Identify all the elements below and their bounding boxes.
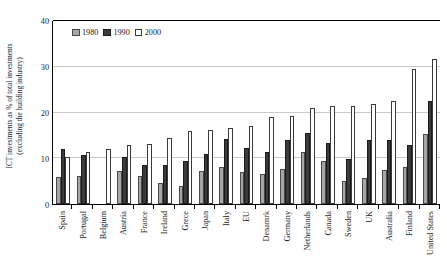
category-label-text: Sweden	[344, 211, 353, 237]
legend-label-1980: 1980	[82, 28, 98, 37]
category-label-text: Italy	[221, 211, 230, 226]
bar-france-2000	[147, 144, 152, 204]
legend-swatch-2000	[135, 29, 143, 37]
category-label-germany: Germany	[277, 209, 297, 280]
category-label-eu: EU	[236, 209, 256, 280]
category-label-austria: Austria	[113, 209, 133, 280]
category-label-text: France	[139, 211, 148, 233]
category-label-grece: Grece	[175, 209, 195, 280]
category-label-spain: Spain	[52, 209, 72, 280]
category-label-canada: Canada	[317, 209, 337, 280]
bar-group	[277, 21, 297, 204]
category-label-text: Portugal	[78, 211, 87, 239]
bar-portugal-2000	[86, 152, 91, 204]
category-label-text: UK	[364, 211, 373, 223]
category-label-finland: Finland	[399, 209, 419, 280]
plot-area	[52, 21, 440, 205]
bar-group	[135, 21, 155, 204]
category-label-australia: Australia	[379, 209, 399, 280]
bar-ireland-2000	[167, 138, 172, 204]
category-label-ireland: Ireland	[154, 209, 174, 280]
legend-item-2000: 2000	[135, 28, 161, 37]
bar-netherlands-2000	[310, 108, 315, 204]
bar-uk-2000	[371, 104, 376, 204]
bar-united-states-2000	[432, 59, 437, 204]
legend-label-2000: 2000	[145, 28, 161, 37]
bar-group	[318, 21, 338, 204]
category-label-text: Belgium	[99, 211, 108, 239]
category-label-netherlands: Netherlands	[297, 209, 317, 280]
bar-group	[399, 21, 419, 204]
y-tick-10: 10	[41, 155, 49, 164]
bar-group	[73, 21, 93, 204]
bar-group	[338, 21, 358, 204]
bar-canada-2000	[330, 106, 335, 204]
category-label-text: Canada	[323, 211, 332, 236]
bar-group	[359, 21, 379, 204]
y-axis-tick-labels: 010203040	[28, 0, 52, 212]
category-label-united-states: United States	[420, 209, 440, 280]
category-label-text: Spain	[58, 211, 67, 230]
y-axis-title-line-1: ICT investments as % of total investment…	[5, 43, 15, 168]
x-axis-category-labels: SpainPortugalBelgiumAustriaFranceIreland…	[52, 209, 440, 280]
bar-group	[257, 21, 277, 204]
category-label-uk: UK	[358, 209, 378, 280]
category-label-text: EU	[242, 211, 251, 222]
bar-belgium-2000	[106, 149, 111, 204]
legend-label-1990: 1990	[113, 28, 129, 37]
bar-group	[196, 21, 216, 204]
bar-group	[216, 21, 236, 204]
y-axis-title: ICT investments as % of total investment…	[0, 0, 28, 212]
category-label-france: France	[134, 209, 154, 280]
category-label-sweden: Sweden	[338, 209, 358, 280]
category-label-portugal: Portugal	[72, 209, 92, 280]
bar-grece-2000	[188, 131, 193, 204]
category-label-text: Australia	[384, 211, 393, 241]
category-label-text: Netherlands	[303, 211, 312, 251]
y-tick-20: 20	[41, 109, 49, 118]
category-label-text: Austria	[119, 211, 128, 235]
y-tick-30: 30	[41, 63, 49, 72]
category-label-italy: Italy	[215, 209, 235, 280]
bar-eu-2000	[249, 126, 254, 204]
legend-item-1990: 1990	[103, 28, 129, 37]
category-label-text: Japan	[201, 211, 210, 230]
bar-group	[298, 21, 318, 204]
bar-spain-2000	[65, 157, 70, 204]
bar-sweden-2000	[351, 106, 356, 204]
bar-finland-2000	[412, 69, 417, 204]
chart-legend: 198019902000	[72, 28, 161, 37]
bar-group	[175, 21, 195, 204]
bar-group	[53, 21, 73, 204]
y-tick-0: 0	[45, 201, 49, 210]
legend-swatch-1990	[103, 29, 111, 37]
bar-italy-2000	[228, 128, 233, 204]
bar-austria-2000	[127, 145, 132, 204]
y-axis-title-line-2: (excluding the building industry)	[14, 43, 24, 168]
category-label-text: Finland	[405, 211, 414, 236]
bar-groups	[53, 21, 440, 204]
bar-group	[155, 21, 175, 204]
category-label-text: Denamrk	[262, 211, 271, 241]
y-tick-40: 40	[41, 17, 49, 26]
category-label-japan: Japan	[195, 209, 215, 280]
bar-group	[379, 21, 399, 204]
category-label-text: United States	[425, 211, 434, 255]
bar-australia-2000	[391, 101, 396, 204]
bar-group	[114, 21, 134, 204]
bar-denamrk-2000	[269, 117, 274, 204]
bar-germany-2000	[290, 116, 295, 204]
bar-group	[94, 21, 114, 204]
bar-chart: ICT investments as % of total investment…	[0, 0, 447, 280]
category-label-text: Ireland	[160, 211, 169, 234]
category-label-denamrk: Denamrk	[256, 209, 276, 280]
bar-japan-2000	[208, 130, 213, 204]
bar-group	[420, 21, 440, 204]
category-label-belgium: Belgium	[93, 209, 113, 280]
category-label-text: Germany	[282, 211, 291, 241]
bar-group	[236, 21, 256, 204]
category-label-text: Grece	[180, 211, 189, 231]
legend-item-1980: 1980	[72, 28, 98, 37]
legend-swatch-1980	[72, 29, 80, 37]
